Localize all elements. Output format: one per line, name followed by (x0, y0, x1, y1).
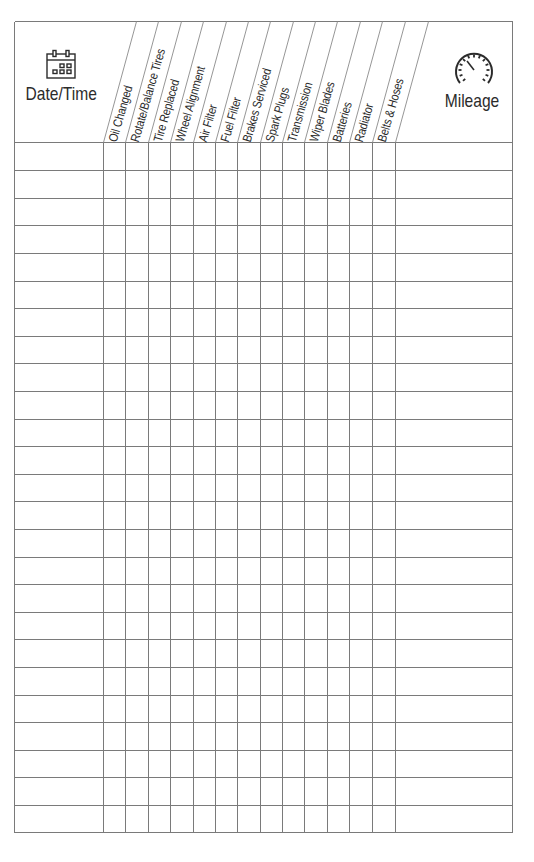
service-checkbox-cell[interactable] (373, 336, 395, 363)
service-checkbox-cell[interactable] (216, 667, 237, 694)
date-time-cell[interactable] (15, 281, 103, 308)
mileage-cell[interactable] (396, 474, 512, 501)
service-checkbox-cell[interactable] (261, 667, 282, 694)
service-checkbox-cell[interactable] (104, 557, 125, 584)
service-checkbox-cell[interactable] (216, 364, 237, 391)
mileage-cell[interactable] (396, 253, 512, 280)
service-checkbox-cell[interactable] (328, 226, 349, 253)
service-checkbox-cell[interactable] (261, 612, 282, 639)
mileage-cell[interactable] (396, 198, 512, 225)
service-checkbox-cell[interactable] (216, 474, 237, 501)
service-checkbox-cell[interactable] (238, 281, 260, 308)
service-checkbox-cell[interactable] (305, 723, 327, 750)
service-checkbox-cell[interactable] (373, 474, 395, 501)
service-checkbox-cell[interactable] (216, 198, 237, 225)
service-checkbox-cell[interactable] (373, 281, 395, 308)
service-checkbox-cell[interactable] (283, 723, 304, 750)
service-checkbox-cell[interactable] (305, 557, 327, 584)
mileage-cell[interactable] (396, 447, 512, 474)
date-time-cell[interactable] (15, 805, 103, 832)
service-checkbox-cell[interactable] (104, 612, 125, 639)
service-checkbox-cell[interactable] (194, 723, 215, 750)
service-checkbox-cell[interactable] (126, 198, 148, 225)
service-checkbox-cell[interactable] (350, 805, 372, 832)
mileage-cell[interactable] (396, 667, 512, 694)
service-checkbox-cell[interactable] (328, 447, 349, 474)
service-checkbox-cell[interactable] (104, 336, 125, 363)
mileage-cell[interactable] (396, 695, 512, 722)
date-time-cell[interactable] (15, 585, 103, 612)
service-checkbox-cell[interactable] (328, 502, 349, 529)
service-checkbox-cell[interactable] (350, 612, 372, 639)
service-checkbox-cell[interactable] (328, 253, 349, 280)
service-checkbox-cell[interactable] (261, 447, 282, 474)
service-checkbox-cell[interactable] (328, 171, 349, 198)
service-checkbox-cell[interactable] (261, 309, 282, 336)
mileage-cell[interactable] (396, 723, 512, 750)
mileage-cell[interactable] (396, 171, 512, 198)
service-checkbox-cell[interactable] (194, 171, 215, 198)
service-checkbox-cell[interactable] (238, 419, 260, 446)
service-checkbox-cell[interactable] (126, 502, 148, 529)
service-checkbox-cell[interactable] (283, 171, 304, 198)
service-checkbox-cell[interactable] (373, 723, 395, 750)
date-time-cell[interactable] (15, 557, 103, 584)
mileage-cell[interactable] (396, 419, 512, 446)
service-checkbox-cell[interactable] (171, 143, 193, 170)
service-checkbox-cell[interactable] (238, 612, 260, 639)
service-checkbox-cell[interactable] (261, 723, 282, 750)
service-checkbox-cell[interactable] (149, 585, 170, 612)
service-checkbox-cell[interactable] (194, 640, 215, 667)
date-time-cell[interactable] (15, 612, 103, 639)
service-checkbox-cell[interactable] (126, 226, 148, 253)
service-checkbox-cell[interactable] (149, 723, 170, 750)
service-checkbox-cell[interactable] (238, 171, 260, 198)
service-checkbox-cell[interactable] (171, 750, 193, 777)
service-checkbox-cell[interactable] (104, 778, 125, 805)
service-checkbox-cell[interactable] (194, 612, 215, 639)
service-checkbox-cell[interactable] (126, 585, 148, 612)
service-checkbox-cell[interactable] (194, 198, 215, 225)
mileage-cell[interactable] (396, 226, 512, 253)
service-checkbox-cell[interactable] (283, 226, 304, 253)
service-checkbox-cell[interactable] (305, 391, 327, 418)
service-checkbox-cell[interactable] (373, 529, 395, 556)
service-checkbox-cell[interactable] (305, 695, 327, 722)
service-checkbox-cell[interactable] (283, 695, 304, 722)
service-checkbox-cell[interactable] (305, 667, 327, 694)
service-checkbox-cell[interactable] (171, 612, 193, 639)
service-checkbox-cell[interactable] (216, 502, 237, 529)
service-checkbox-cell[interactable] (238, 640, 260, 667)
service-checkbox-cell[interactable] (104, 419, 125, 446)
service-checkbox-cell[interactable] (328, 723, 349, 750)
service-checkbox-cell[interactable] (261, 557, 282, 584)
service-checkbox-cell[interactable] (261, 585, 282, 612)
service-checkbox-cell[interactable] (350, 557, 372, 584)
service-checkbox-cell[interactable] (126, 667, 148, 694)
service-checkbox-cell[interactable] (126, 750, 148, 777)
service-checkbox-cell[interactable] (126, 529, 148, 556)
service-checkbox-cell[interactable] (104, 640, 125, 667)
service-checkbox-cell[interactable] (350, 723, 372, 750)
service-checkbox-cell[interactable] (104, 226, 125, 253)
service-checkbox-cell[interactable] (283, 198, 304, 225)
service-checkbox-cell[interactable] (104, 253, 125, 280)
service-checkbox-cell[interactable] (350, 364, 372, 391)
service-checkbox-cell[interactable] (149, 557, 170, 584)
mileage-cell[interactable] (396, 143, 512, 170)
service-checkbox-cell[interactable] (149, 667, 170, 694)
service-checkbox-cell[interactable] (373, 391, 395, 418)
service-checkbox-cell[interactable] (194, 253, 215, 280)
service-checkbox-cell[interactable] (261, 778, 282, 805)
mileage-cell[interactable] (396, 364, 512, 391)
service-checkbox-cell[interactable] (373, 171, 395, 198)
service-checkbox-cell[interactable] (261, 419, 282, 446)
service-checkbox-cell[interactable] (350, 281, 372, 308)
service-checkbox-cell[interactable] (305, 336, 327, 363)
date-time-cell[interactable] (15, 253, 103, 280)
service-checkbox-cell[interactable] (261, 226, 282, 253)
service-checkbox-cell[interactable] (328, 750, 349, 777)
service-checkbox-cell[interactable] (171, 640, 193, 667)
service-checkbox-cell[interactable] (350, 171, 372, 198)
service-checkbox-cell[interactable] (305, 529, 327, 556)
